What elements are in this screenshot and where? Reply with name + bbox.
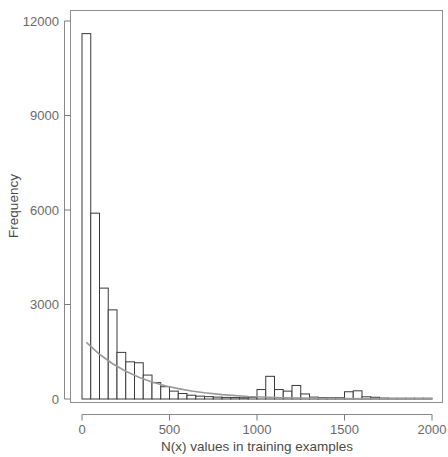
y-tick-label: 12000	[23, 14, 59, 29]
histogram-bar	[152, 383, 161, 399]
histogram-bar	[196, 396, 205, 399]
histogram-bar	[222, 397, 231, 399]
histogram-bar	[213, 397, 222, 399]
y-tick-label: 6000	[30, 203, 59, 218]
histogram-bar	[91, 213, 100, 399]
histogram-bar	[231, 398, 240, 399]
histogram-bar	[205, 397, 214, 399]
x-tick-label: 500	[159, 422, 181, 437]
histogram-bar	[117, 352, 126, 399]
y-axis-title: Frequency	[6, 174, 21, 238]
histogram-bar	[126, 362, 135, 399]
histogram-bar	[100, 288, 109, 399]
y-tick-label: 0	[52, 392, 59, 407]
y-tick-label: 9000	[30, 108, 59, 123]
x-axis-ticks: 0500100015002000	[78, 415, 446, 438]
histogram-bar	[161, 387, 170, 399]
plot-frame	[71, 11, 443, 403]
histogram-bars	[82, 34, 432, 399]
histogram-bar	[135, 363, 144, 399]
chart-figure: 030006000900012000 0500100015002000 Freq…	[0, 0, 448, 457]
y-axis-ticks: 030006000900012000	[23, 14, 71, 407]
histogram-bar	[292, 385, 301, 399]
histogram-bar	[170, 391, 179, 399]
y-tick-label: 3000	[30, 297, 59, 312]
histogram-bar	[178, 393, 187, 399]
histogram-bar	[187, 395, 196, 399]
histogram-bar	[240, 398, 249, 399]
x-tick-label: 1500	[330, 422, 359, 437]
x-tick-label: 2000	[418, 422, 447, 437]
x-tick-label: 1000	[243, 422, 272, 437]
histogram-chart: 030006000900012000 0500100015002000 Freq…	[0, 0, 448, 457]
x-tick-label: 0	[78, 422, 85, 437]
x-axis-title: N(x) values in training examples	[161, 439, 353, 454]
histogram-bar	[353, 391, 362, 399]
histogram-bar	[108, 310, 117, 399]
histogram-bar	[266, 376, 275, 399]
